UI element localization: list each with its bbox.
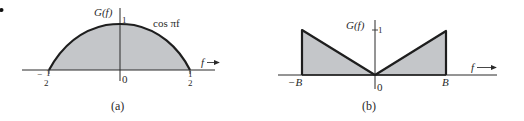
bullet-mark (0, 8, 4, 12)
panel-a-tick-origin: 0 (122, 73, 128, 85)
panel-b-peak-label: 1 (378, 25, 383, 35)
panel-b-tick-right: B (442, 76, 449, 88)
panel-b-tick-left: −B (288, 76, 302, 88)
panel-a-caption: (a) (111, 99, 124, 113)
panel-b: G(f) 1 f −B 0 B (b) (278, 19, 497, 113)
panel-a-y-label: G(f) (94, 6, 113, 19)
panel-a-tick-left-den: 2 (44, 78, 49, 88)
panel-a-tick-left-minus: − (37, 69, 42, 79)
panel-b-x-label: f (471, 61, 476, 73)
figure: G(f) 1 cos πf f − 1 2 0 1 2 (a) G(f) 1 (0, 0, 524, 121)
panel-a-tick-left-num: 1 (46, 68, 51, 78)
panel-a-curve-label: cos πf (153, 17, 180, 29)
panel-b-caption: (b) (362, 99, 376, 113)
panel-a-x-label: f (201, 56, 206, 68)
panel-a: G(f) 1 cos πf f − 1 2 0 1 2 (a) (22, 6, 219, 113)
panel-b-y-label: G(f) (346, 19, 365, 32)
panel-a-peak-label: 1 (122, 15, 127, 25)
panel-a-tick-right-den: 2 (188, 78, 193, 88)
panel-b-tick-origin: 0 (377, 81, 383, 93)
